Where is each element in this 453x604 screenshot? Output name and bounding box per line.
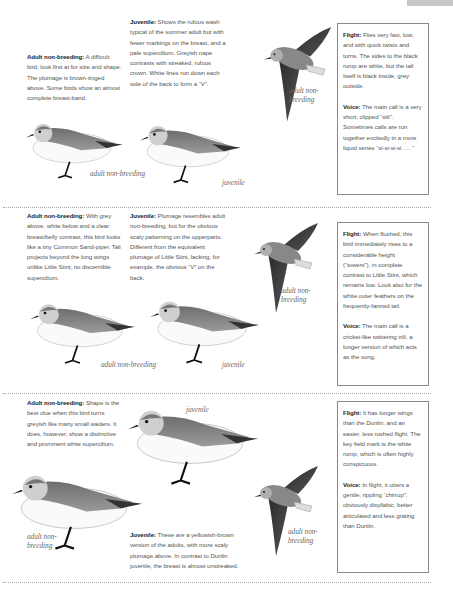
bird-illustration-juvenile	[150, 295, 280, 385]
flight-description: Flight: Flies very fast, low, and with q…	[343, 30, 423, 92]
flight-voice-box: Flight: When flushed, this bird immediat…	[337, 222, 429, 386]
caption-juvenile: juvenile	[222, 179, 245, 188]
adult-label: Adult non-breeding:	[27, 399, 84, 406]
caption-adult: adult non-breeding	[90, 170, 145, 179]
adult-description: Adult non-breeding: With grey above, whi…	[27, 211, 122, 283]
voice-description: Voice: In flight, it utters a gentle, ri…	[343, 480, 423, 531]
adult-description: Adult non-breeding: A difficult bird; lo…	[27, 52, 122, 103]
flight-description: Flight: It has longer wings than the Dun…	[343, 408, 423, 470]
voice-description: Voice: The main call is a very short, cl…	[343, 102, 423, 153]
adult-label: Adult non-breeding:	[27, 212, 84, 219]
section-divider	[3, 393, 431, 394]
bird-illustration-adult	[26, 118, 126, 198]
flight-description: Flight: When flushed, this bird immediat…	[343, 229, 423, 311]
section-divider	[3, 582, 431, 583]
caption-adult: adult non-breeding	[101, 361, 156, 370]
bird-illustration-flying	[254, 466, 324, 566]
juvenile-description: Juvenile: These are a yellowish-brown ve…	[130, 530, 248, 571]
bird-illustration-flying	[264, 27, 334, 127]
caption-juvenile: juvenile	[186, 406, 209, 415]
page-tab-marker	[407, 0, 453, 6]
voice-description: Voice: The main call is a cricket-like t…	[343, 321, 423, 362]
juvenile-label: Juvenile:	[130, 531, 156, 538]
flight-voice-box: Flight: Flies very fast, low, and with q…	[337, 23, 429, 195]
bird-illustration-juvenile	[140, 120, 260, 200]
flight-voice-box: Flight: It has longer wings than the Dun…	[337, 401, 429, 573]
juvenile-description: Juvenile: Shows the rufous wash typical …	[130, 17, 228, 89]
adult-description: Adult non-breeding: Shape is the best cl…	[27, 398, 122, 449]
caption-juvenile: juvenile	[222, 361, 245, 370]
caption-flying: adult non-breeding	[289, 87, 329, 105]
section-divider	[3, 207, 431, 208]
juvenile-label: Juvenile:	[130, 212, 156, 219]
caption-flying: adult non-breeding	[281, 287, 321, 305]
caption-flying: adult non-breeding	[288, 528, 328, 546]
adult-label: Adult non-breeding:	[27, 53, 84, 60]
juvenile-label: Juvenile:	[130, 18, 156, 25]
caption-adult: adult non-breeding	[27, 533, 67, 551]
juvenile-description: Juvenile: Plumage resembles adult non-br…	[130, 211, 228, 283]
